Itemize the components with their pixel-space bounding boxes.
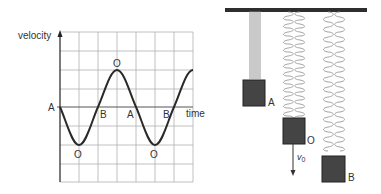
- point-label: B: [100, 109, 107, 120]
- spring-a: [249, 12, 261, 78]
- velocity-axis-arrow-icon: [58, 30, 63, 37]
- block-a-label: A: [268, 97, 275, 108]
- block-o: [283, 118, 305, 144]
- x-axis-label: time: [186, 108, 205, 119]
- spring-o: [284, 12, 305, 126]
- block-o-label: O: [307, 135, 315, 146]
- point-label: O: [113, 58, 121, 69]
- block-a: [243, 80, 265, 106]
- point-label: B: [163, 109, 170, 120]
- ceiling-bar: [225, 8, 367, 12]
- spring-b: [324, 12, 345, 151]
- velocity-arrow-head-icon: [291, 170, 296, 176]
- point-label: O: [74, 149, 82, 160]
- y-axis-label: velocity: [18, 30, 51, 41]
- point-label: A: [127, 109, 134, 120]
- zero-label-a: A: [48, 102, 55, 113]
- diagram: velocity time A O B O A B O A O v0 B: [0, 0, 381, 194]
- block-b-label: B: [348, 172, 355, 183]
- velocity-label: v0: [297, 152, 306, 163]
- block-b: [322, 156, 345, 182]
- point-label: O: [150, 149, 158, 160]
